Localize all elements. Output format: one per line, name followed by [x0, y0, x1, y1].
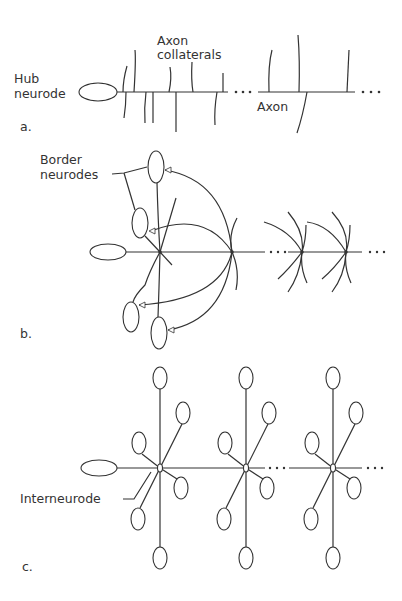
- node-2-branches: [139, 167, 237, 333]
- panel-a-label: a.: [20, 119, 32, 134]
- border-neurode: [174, 477, 188, 499]
- hub-neurode: [79, 83, 117, 101]
- axon-dots-2: [367, 467, 383, 469]
- axon-dots-2: [362, 91, 381, 94]
- axon-dots-1: [235, 91, 252, 94]
- border-neurode: [262, 402, 276, 424]
- panel-b: Border neurodes: [20, 151, 385, 349]
- axon-label: Axon: [257, 99, 288, 114]
- axon-dots-1: [270, 251, 286, 253]
- hub-label-line2: neurode: [14, 86, 66, 101]
- border-neurode: [305, 432, 319, 454]
- panel-c: Interneurode: [20, 367, 383, 574]
- border-neurode: [151, 317, 167, 349]
- axon-dots-2: [369, 251, 385, 253]
- border-neurode: [347, 477, 361, 499]
- node-1-branches: [133, 183, 176, 317]
- border-neurode: [239, 367, 253, 389]
- border-neurode: [326, 547, 340, 569]
- border-neurode: [304, 508, 318, 530]
- collaterals-label-line2: collaterals: [157, 47, 222, 62]
- interneurode-label: Interneurode: [20, 491, 101, 506]
- panel-b-label: b.: [20, 326, 32, 341]
- axon-dots-1: [269, 467, 285, 469]
- neurode-diagram: Hub neurode Axon collaterals Axon: [0, 0, 402, 601]
- border-neurode: [123, 302, 139, 332]
- border-neurode: [326, 367, 340, 389]
- interneurode: [331, 464, 336, 472]
- border-neurode: [148, 151, 164, 183]
- hub-label-line1: Hub: [14, 71, 39, 86]
- border-neurode: [218, 432, 232, 454]
- hub-neurode: [81, 460, 117, 476]
- collaterals-label-line1: Axon: [157, 33, 188, 48]
- hub-neurode: [90, 244, 126, 260]
- border-neurode: [176, 402, 190, 424]
- border-neurode: [217, 508, 231, 530]
- border-neurode: [131, 508, 145, 530]
- interneurode: [244, 464, 249, 472]
- border-neurode: [260, 477, 274, 499]
- border-pointer-line: [124, 173, 135, 210]
- border-neurode: [153, 547, 167, 569]
- border-neurode: [153, 367, 167, 389]
- border-neurode: [132, 432, 146, 454]
- border-pointer-line: [112, 167, 147, 174]
- border-neurode: [349, 402, 363, 424]
- border-neurode: [132, 208, 148, 238]
- panel-c-label: c.: [22, 559, 33, 574]
- interneurode: [158, 464, 163, 472]
- panel-a: Hub neurode Axon collaterals Axon: [14, 33, 380, 134]
- border-label-line2: neurodes: [40, 167, 98, 182]
- border-label-line1: Border: [40, 152, 83, 167]
- border-neurode: [239, 547, 253, 569]
